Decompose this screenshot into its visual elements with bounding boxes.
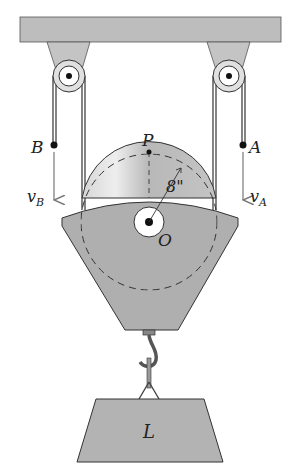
- label-a: A: [247, 137, 261, 157]
- label-o: O: [158, 230, 172, 250]
- right-pulley: [213, 60, 245, 92]
- hook-mount: [143, 330, 155, 335]
- point-b: [51, 142, 58, 149]
- label-load: L: [142, 421, 155, 442]
- label-radius: 8": [166, 177, 184, 196]
- ceiling: [20, 17, 281, 42]
- point-a: [240, 142, 247, 149]
- left-pulley: [53, 60, 85, 92]
- label-p: P: [141, 130, 154, 150]
- label-vb: vB: [27, 187, 44, 209]
- label-b: B: [30, 137, 44, 157]
- pulley-diagram: B A P O 8" vB vA L: [0, 0, 291, 476]
- label-va: vA: [250, 187, 267, 209]
- point-p: [147, 150, 152, 155]
